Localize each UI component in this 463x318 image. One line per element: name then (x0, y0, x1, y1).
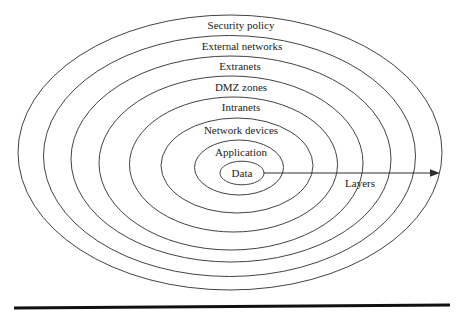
ring-label-network-devices: Network devices (204, 124, 278, 136)
layers-arrowhead-icon (430, 169, 440, 177)
ring-label-intranets: Intranets (222, 101, 260, 113)
ring-label-application: Application (215, 146, 267, 158)
ring-label-data: Data (232, 167, 253, 179)
ring-label-dmz-zones: DMZ zones (215, 81, 267, 93)
ring-label-security-policy: Security policy (208, 19, 275, 31)
bottom-rule (14, 305, 450, 308)
layered-security-figure: Security policy External networks Extran… (0, 0, 463, 318)
layered-security-diagram: Security policy External networks Extran… (0, 0, 463, 318)
ring-label-external-networks: External networks (202, 40, 282, 52)
layers-arrow-label: Layers (345, 177, 375, 189)
ring-label-extranets: Extranets (219, 60, 261, 72)
